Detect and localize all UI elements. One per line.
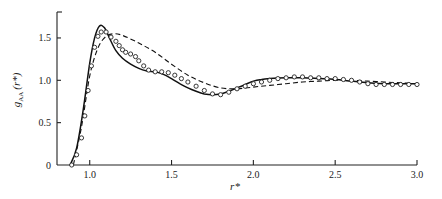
data-marker [96, 34, 100, 38]
data-marker [268, 78, 272, 82]
data-marker [325, 77, 329, 81]
y-tick-label: 1.0 [39, 75, 52, 86]
data-marker [166, 71, 170, 75]
y-axis-title: gAA(r*) [10, 72, 25, 107]
data-marker [142, 64, 146, 68]
y-ticks: 00.51.01.5 [39, 32, 62, 170]
data-marker [104, 30, 108, 34]
data-marker [243, 84, 247, 88]
data-marker [284, 76, 288, 80]
rdf-chart: 1.01.52.02.53.0 00.51.01.5 r* gAA(r*) [0, 0, 442, 199]
data-marker [114, 39, 118, 43]
data-marker [179, 77, 183, 81]
y-tick-label: 0.5 [39, 117, 52, 128]
x-tick-label: 2.0 [247, 169, 260, 180]
data-marker [79, 136, 83, 140]
data-marker [194, 84, 198, 88]
data-marker [341, 77, 345, 81]
y-axis-title-sub: AA [17, 92, 25, 102]
data-marker [186, 80, 190, 84]
data-marker [259, 80, 263, 84]
data-marker [117, 44, 121, 48]
data-marker [251, 82, 255, 86]
data-marker [309, 76, 313, 80]
y-tick-label: 1.5 [39, 32, 52, 43]
data-marker [133, 55, 137, 59]
data-marker [89, 64, 93, 68]
data-marker [129, 52, 133, 56]
data-marker [147, 68, 151, 72]
data-marker [160, 70, 164, 74]
data-marker [109, 35, 113, 39]
x-tick-label: 3.0 [411, 169, 424, 180]
data-marker [358, 80, 362, 84]
y-axis-title-arg: (r*) [10, 72, 23, 89]
data-marker [83, 114, 87, 118]
data-marker [300, 75, 304, 79]
data-marker [124, 50, 128, 54]
data-marker [399, 82, 403, 86]
data-marker [374, 82, 378, 86]
data-marker [415, 82, 419, 86]
x-ticks: 1.01.52.02.53.0 [83, 160, 423, 180]
x-tick-label: 1.0 [83, 169, 96, 180]
data-marker [292, 75, 296, 79]
data-marker [333, 77, 337, 81]
series-solid-line [70, 25, 417, 165]
data-marker [349, 78, 353, 82]
series-group [70, 25, 420, 167]
y-tick-label: 0 [46, 160, 51, 171]
series-circles [70, 30, 420, 167]
data-marker [75, 153, 79, 157]
data-marker [317, 76, 321, 80]
data-marker [276, 77, 280, 81]
data-marker [93, 45, 97, 49]
data-marker [210, 92, 214, 96]
data-marker [153, 70, 157, 74]
svg-text:gAA(r*): gAA(r*) [10, 72, 25, 107]
data-marker [366, 82, 370, 86]
data-marker [202, 88, 206, 92]
x-axis-title: r* [230, 180, 240, 192]
data-marker [407, 82, 411, 86]
data-marker [70, 163, 74, 167]
data-marker [173, 73, 177, 77]
x-tick-label: 1.5 [165, 169, 178, 180]
x-tick-label: 2.5 [329, 169, 342, 180]
data-marker [382, 82, 386, 86]
data-marker [390, 82, 394, 86]
data-marker [219, 93, 223, 97]
data-marker [235, 87, 239, 91]
data-marker [99, 30, 103, 34]
data-marker [86, 88, 90, 92]
data-marker [227, 90, 231, 94]
data-marker [137, 59, 141, 63]
